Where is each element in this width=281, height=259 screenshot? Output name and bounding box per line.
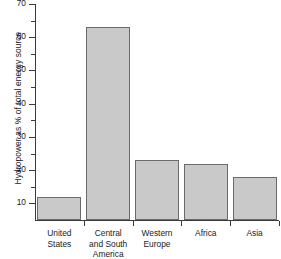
y-tick-major — [29, 37, 35, 38]
y-tick-major — [29, 104, 35, 105]
y-tick-major — [29, 4, 35, 5]
x-tick — [279, 221, 280, 226]
y-tick-minor — [31, 154, 35, 155]
bar — [135, 160, 179, 220]
bar — [233, 177, 277, 220]
y-tick-minor — [31, 54, 35, 55]
x-tick — [230, 221, 231, 226]
y-tick-major — [29, 170, 35, 171]
y-tick-major — [29, 70, 35, 71]
x-category-label: Western Europe — [133, 228, 182, 249]
y-tick-major — [29, 203, 35, 204]
y-tick-label: 40 — [4, 98, 26, 108]
x-tick — [133, 221, 134, 226]
y-tick-minor — [31, 87, 35, 88]
x-category-label-line: America — [84, 249, 133, 259]
x-category-label-line: United States — [35, 228, 84, 249]
y-tick-minor — [31, 187, 35, 188]
x-category-label: Centraland SouthAmerica — [84, 228, 133, 259]
y-tick-label: 30 — [4, 131, 26, 141]
x-tick — [84, 221, 85, 226]
x-category-label: Asia — [230, 228, 279, 239]
bar-chart: Hydropower as % of total energy source 1… — [0, 0, 281, 259]
y-tick-label: 70 — [4, 0, 26, 8]
x-category-label-line: and South — [84, 239, 133, 250]
y-tick-major — [29, 137, 35, 138]
bar — [184, 164, 228, 220]
x-category-label: Africa — [181, 228, 230, 239]
x-category-label-line: Africa — [181, 228, 230, 239]
y-axis-line — [35, 4, 36, 221]
x-axis-line — [35, 220, 279, 221]
bar — [37, 197, 81, 220]
x-category-label-line: Asia — [230, 228, 279, 239]
x-category-label: United States — [35, 228, 84, 249]
y-tick-minor — [31, 21, 35, 22]
x-category-label-line: Central — [84, 228, 133, 239]
x-category-label-line: Western Europe — [133, 228, 182, 249]
x-tick — [181, 221, 182, 226]
y-tick-label: 60 — [4, 31, 26, 41]
y-tick-label: 50 — [4, 64, 26, 74]
y-axis-label: Hydropower as % of total energy source — [13, 13, 23, 203]
bar — [86, 27, 130, 220]
y-tick-label: 10 — [4, 197, 26, 207]
y-tick-label: 20 — [4, 164, 26, 174]
y-tick-minor — [31, 120, 35, 121]
